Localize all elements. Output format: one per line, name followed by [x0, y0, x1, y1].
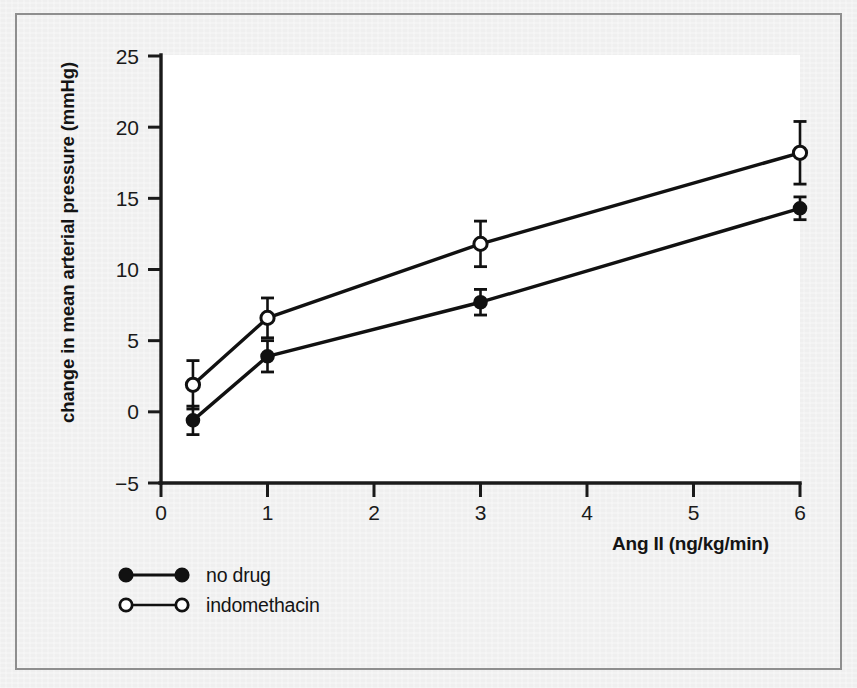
marker-filled-circle	[187, 414, 199, 426]
marker-open-circle	[186, 378, 199, 391]
chart-legend: no drug indomethacin	[116, 560, 446, 620]
legend-label-no-drug: no drug	[206, 564, 271, 587]
y-tick-label: 5	[127, 329, 139, 352]
figure-canvas: −505101520250123456 change in mean arter…	[0, 0, 857, 688]
x-tick-label: 1	[262, 501, 274, 524]
x-tick-label: 5	[688, 501, 700, 524]
y-tick-label: 0	[127, 400, 139, 423]
y-tick-label: 25	[116, 45, 139, 68]
marker-filled-circle	[474, 296, 486, 308]
y-tick-label: −5	[115, 472, 139, 495]
legend-item-no-drug: no drug	[116, 560, 446, 590]
open-circle-icon	[116, 593, 192, 617]
x-axis-label: Ang II (ng/kg/min)	[612, 533, 769, 555]
x-tick-label: 2	[368, 501, 380, 524]
y-tick-label: 15	[116, 187, 139, 210]
marker-filled-circle	[794, 202, 806, 214]
marker-open-circle	[474, 237, 487, 250]
x-tick-label: 4	[581, 501, 593, 524]
x-tick-label: 3	[475, 501, 487, 524]
marker-open-circle	[793, 146, 806, 159]
marker-filled-circle	[261, 350, 273, 362]
legend-label-indomethacin: indomethacin	[206, 594, 320, 617]
filled-circle-icon	[116, 563, 192, 587]
y-tick-label: 10	[116, 258, 139, 281]
y-tick-label: 20	[116, 116, 139, 139]
plot-background	[161, 55, 800, 483]
x-tick-label: 6	[794, 501, 806, 524]
marker-open-circle	[261, 311, 274, 324]
x-tick-label: 0	[155, 501, 167, 524]
y-axis-label: change in mean arterial pressure (mmHg)	[57, 93, 79, 423]
legend-item-indomethacin: indomethacin	[116, 590, 446, 620]
